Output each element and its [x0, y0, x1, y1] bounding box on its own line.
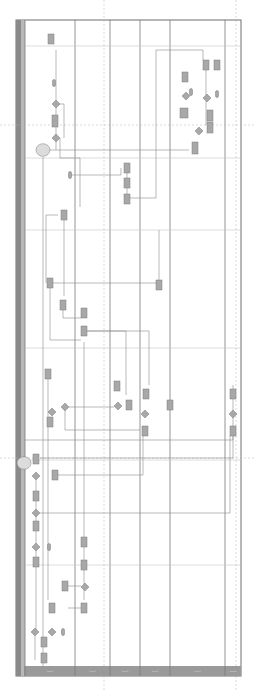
- left-pool-bar: [16, 20, 21, 676]
- process-box: [60, 300, 66, 310]
- connector-line: [50, 288, 81, 340]
- decision-diamond: [32, 543, 40, 551]
- decision-diamond: [48, 628, 56, 636]
- process-box: [81, 326, 87, 336]
- flow-shapes: [17, 34, 237, 663]
- decision-diamond: [61, 403, 69, 411]
- connector-line: [130, 50, 203, 198]
- process-box: [48, 34, 54, 44]
- connector-line: [70, 168, 121, 175]
- decision-diamond: [52, 100, 60, 108]
- process-box: [41, 637, 47, 647]
- left-pool-bar-inner: [21, 20, 25, 676]
- terminator: [216, 91, 219, 98]
- terminator: [62, 629, 65, 636]
- process-box: [230, 426, 236, 436]
- lane-header-band: [25, 666, 241, 676]
- terminator: [190, 89, 193, 96]
- decision-diamond: [141, 410, 149, 418]
- decision-diamond: [32, 509, 40, 517]
- process-box: [47, 417, 53, 427]
- connector-line: [56, 436, 143, 475]
- terminator: [53, 80, 56, 87]
- process-box: [61, 210, 67, 220]
- process-box: [47, 278, 53, 288]
- process-box: [207, 122, 213, 133]
- process-box: [180, 108, 188, 118]
- process-box: [167, 400, 173, 410]
- process-box: [33, 521, 39, 531]
- process-box: [81, 537, 87, 547]
- process-box: [207, 110, 213, 121]
- process-box: [124, 163, 130, 173]
- process-box: [52, 470, 58, 480]
- decision-diamond: [81, 583, 89, 591]
- process-box: [62, 581, 68, 591]
- process-box: [33, 491, 39, 501]
- process-box: [81, 560, 87, 570]
- annotation-cloud: [17, 457, 31, 470]
- decision-diamond: [48, 408, 56, 416]
- process-box: [52, 115, 58, 127]
- process-box: [214, 60, 220, 70]
- decision-diamond: [182, 92, 190, 100]
- connector-line: [46, 215, 58, 283]
- decision-diamond: [114, 402, 122, 410]
- connectors: [25, 50, 233, 676]
- decision-diamond: [195, 127, 203, 135]
- decision-diamond: [203, 94, 211, 102]
- swimlanes: [0, 0, 254, 692]
- process-box: [114, 381, 120, 391]
- process-box: [124, 178, 130, 188]
- process-box: [41, 653, 47, 663]
- process-box: [45, 369, 51, 379]
- process-box: [156, 280, 162, 290]
- connector-line: [65, 411, 140, 430]
- process-box: [81, 603, 87, 613]
- process-box: [142, 426, 148, 436]
- connector-line: [40, 436, 230, 513]
- terminator: [69, 172, 72, 179]
- process-box: [33, 557, 39, 567]
- process-box: [33, 454, 39, 464]
- process-box: [81, 308, 87, 318]
- connector-line: [25, 385, 233, 440]
- decision-diamond: [52, 134, 60, 142]
- terminator: [48, 544, 51, 551]
- process-box: [49, 603, 55, 613]
- annotation-cloud: [36, 144, 50, 157]
- process-box: [126, 400, 132, 410]
- process-box: [182, 72, 188, 82]
- decision-diamond: [32, 472, 40, 480]
- process-box: [203, 60, 209, 70]
- lane-header: Lane 1Lane 2Lane 3Lane 4Lane 5Lane 6: [25, 666, 241, 676]
- process-box: [192, 142, 198, 154]
- process-box: [124, 194, 130, 204]
- decision-diamond: [31, 628, 39, 636]
- swimlane-diagram: Lane 1Lane 2Lane 3Lane 4Lane 5Lane 6: [0, 0, 254, 692]
- connector-line: [40, 436, 233, 458]
- process-box: [230, 389, 236, 399]
- process-box: [143, 389, 149, 399]
